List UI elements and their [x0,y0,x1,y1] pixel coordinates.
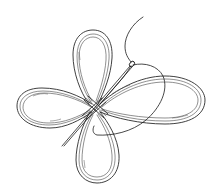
knot-illustration [0,0,219,195]
left-loop [17,88,92,128]
needle [62,60,136,146]
bottom-loop [76,112,119,183]
knot-drawing [0,0,219,195]
top-loop [73,30,112,104]
